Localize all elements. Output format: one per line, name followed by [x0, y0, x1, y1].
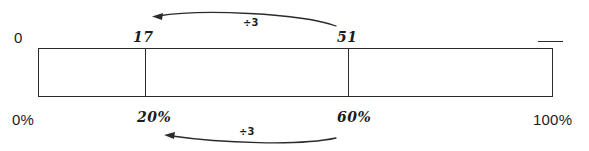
bottom-division-arrow-icon	[0, 0, 589, 151]
bottom-operation-label: ÷3	[239, 126, 254, 137]
diagram-canvas: 0 17 51 0% 20% 60% 100% ÷3 ÷3	[0, 0, 589, 151]
